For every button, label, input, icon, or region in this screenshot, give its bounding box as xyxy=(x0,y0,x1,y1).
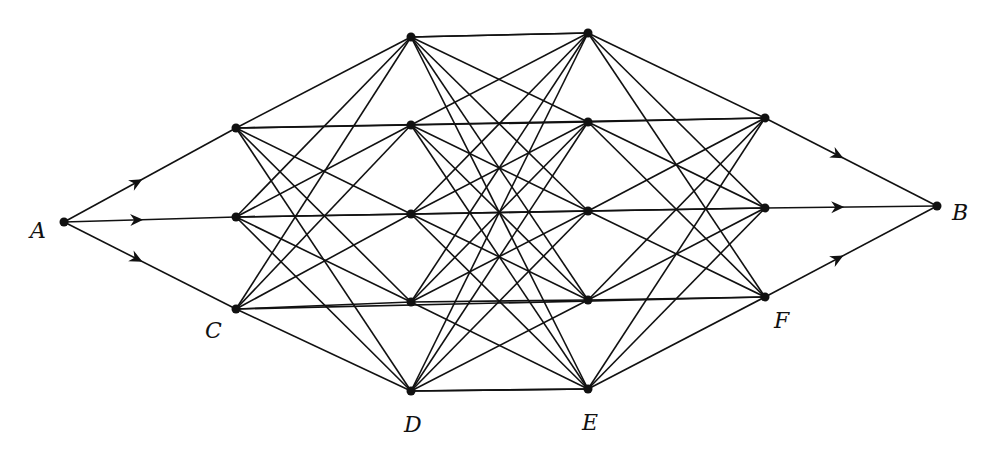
node-E4 xyxy=(584,296,593,305)
edge xyxy=(411,300,588,391)
node-F2 xyxy=(761,204,770,213)
edge xyxy=(64,222,236,309)
node-D3 xyxy=(407,210,416,219)
edge xyxy=(236,297,765,309)
edge xyxy=(588,118,765,211)
node-E2 xyxy=(584,118,593,127)
edge xyxy=(236,309,411,391)
edge xyxy=(588,297,765,389)
edge xyxy=(236,37,411,309)
node-label-D: D xyxy=(404,412,422,437)
edge xyxy=(411,389,588,391)
node-D5 xyxy=(407,387,416,396)
node-E1 xyxy=(584,29,593,38)
edge xyxy=(236,214,411,309)
node-E5 xyxy=(584,385,593,394)
node-B xyxy=(933,202,942,211)
node-D1 xyxy=(407,33,416,42)
node-label-B: B xyxy=(952,200,968,225)
node-label-C: C xyxy=(205,318,222,343)
node-label-F: F xyxy=(774,308,789,333)
edge xyxy=(236,217,411,391)
edge xyxy=(588,33,765,118)
edge xyxy=(411,33,588,125)
edges xyxy=(64,33,937,391)
node-F1 xyxy=(761,114,770,123)
node-C3 xyxy=(232,305,241,314)
arrow-icon xyxy=(829,250,846,267)
node-E3 xyxy=(584,207,593,216)
node-label-A: A xyxy=(30,218,46,243)
node-A xyxy=(60,218,69,227)
edge xyxy=(236,118,765,128)
node-C1 xyxy=(232,124,241,133)
edge xyxy=(765,206,937,297)
edge xyxy=(64,217,236,222)
edge xyxy=(64,128,236,222)
arrow-icon xyxy=(829,147,846,164)
node-D2 xyxy=(407,121,416,130)
edge xyxy=(765,206,937,208)
network-diagram xyxy=(0,0,990,463)
edge xyxy=(765,118,937,206)
edge xyxy=(236,217,411,302)
arrow-icon xyxy=(128,250,145,267)
node-label-E: E xyxy=(582,410,598,435)
edge xyxy=(236,125,411,217)
node-F3 xyxy=(761,293,770,302)
node-D4 xyxy=(407,298,416,307)
node-C2 xyxy=(232,213,241,222)
arrow-icon xyxy=(128,174,145,191)
arrowheads xyxy=(128,147,846,267)
edge xyxy=(411,33,588,37)
edge xyxy=(588,118,765,389)
edge xyxy=(236,37,411,128)
